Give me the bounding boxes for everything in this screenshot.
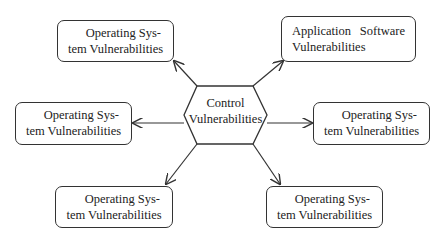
node-bottom-left: Operating Sys- tem Vulnerabilities <box>55 186 173 228</box>
node-label-line1: Operating Sys- <box>273 191 376 207</box>
edge-to-top-left <box>174 61 197 86</box>
node-label-line2: tem Vulnerabilities <box>62 207 166 223</box>
node-top-right: Application Software Vulnerabilities <box>281 16 416 62</box>
node-label-line1: Operating Sys- <box>64 25 167 41</box>
edge-to-top-right <box>253 61 283 86</box>
edge-to-bottom-right <box>253 144 280 184</box>
edge-to-bottom-left <box>166 144 197 184</box>
node-label-line2: Vulnerabilities <box>292 39 405 55</box>
center-label-line1: Control <box>184 95 267 111</box>
node-label-line1: Application Software <box>292 23 405 39</box>
center-label: Control Vulnerabilities <box>184 95 267 127</box>
node-label-line2: tem Vulnerabilities <box>273 207 376 223</box>
node-label-line2: tem Vulnerabilities <box>320 123 423 139</box>
center-label-line2: Vulnerabilities <box>184 111 267 127</box>
node-label-line2: tem Vulnerabilities <box>64 41 167 57</box>
node-top-left: Operating Sys- tem Vulnerabilities <box>57 20 174 62</box>
node-bottom-right: Operating Sys- tem Vulnerabilities <box>266 186 383 228</box>
node-label-line1: Operating Sys- <box>22 107 125 123</box>
node-label-line2: tem Vulnerabilities <box>22 123 125 139</box>
node-middle-left: Operating Sys- tem Vulnerabilities <box>15 102 132 145</box>
node-label-line1: Operating Sys- <box>320 107 423 123</box>
node-middle-right: Operating Sys- tem Vulnerabilities <box>313 102 430 145</box>
node-label-line1: Operating Sys- <box>62 191 166 207</box>
